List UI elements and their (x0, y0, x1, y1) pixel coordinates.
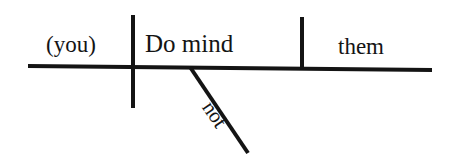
verb-phrase-word: Do mind (145, 31, 233, 56)
diagram-lines (0, 0, 458, 157)
subject-word: (you) (46, 33, 96, 56)
direct-object-word: them (338, 35, 384, 58)
sentence-diagram: (you) Do mind them not (0, 0, 458, 157)
main-baseline (28, 66, 432, 70)
